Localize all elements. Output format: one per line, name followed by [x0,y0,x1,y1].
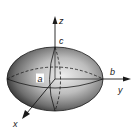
semi-axis-label-c: c [59,36,64,46]
semi-axis-label-b: b [110,67,115,77]
axis-label-z: z [58,16,64,26]
axis-label-y: y [117,85,123,95]
z-axis-arrowhead-icon [53,16,58,24]
axis-label-x: x [12,119,18,129]
semi-axis-label-a: a [38,74,43,84]
y-axis-arrowhead-icon [123,77,131,82]
ellipsoid-diagram: z y x c b a [0,0,136,131]
